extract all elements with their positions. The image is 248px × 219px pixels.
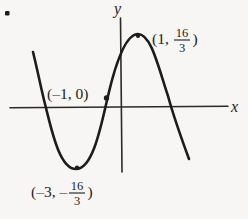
label-min-suffix: ) xyxy=(88,183,93,201)
point-dot-root xyxy=(104,95,109,100)
label-max-point: (1, 16 3 ) xyxy=(152,26,198,55)
y-axis-line xyxy=(121,18,123,172)
figure-canvas: x y (–1, 0) (1, 16 3 ) (–3, – 16 3 ) xyxy=(0,0,248,219)
label-max-suffix: ) xyxy=(193,30,198,48)
point-dot-min xyxy=(75,165,79,169)
label-max-fraction-numerator: 16 xyxy=(176,26,189,40)
label-max-fraction-denominator: 3 xyxy=(179,41,185,55)
math-figure: x y (–1, 0) (1, 16 3 ) (–3, – 16 3 ) xyxy=(0,0,248,219)
label-min-fraction-numerator: 16 xyxy=(71,179,84,193)
y-axis-label: y xyxy=(112,0,122,18)
x-axis-label: x xyxy=(230,98,238,115)
point-dot-max xyxy=(136,34,140,38)
label-max-prefix: (1, xyxy=(152,30,169,48)
label-min-fraction-denominator: 3 xyxy=(74,194,80,208)
label-root-point: (–1, 0) xyxy=(47,85,88,103)
x-axis-line xyxy=(10,106,228,108)
label-min-point: (–3, – 16 3 ) xyxy=(31,179,93,208)
list-bullet-icon xyxy=(5,11,10,16)
label-min-prefix: (–3, – xyxy=(31,183,67,201)
